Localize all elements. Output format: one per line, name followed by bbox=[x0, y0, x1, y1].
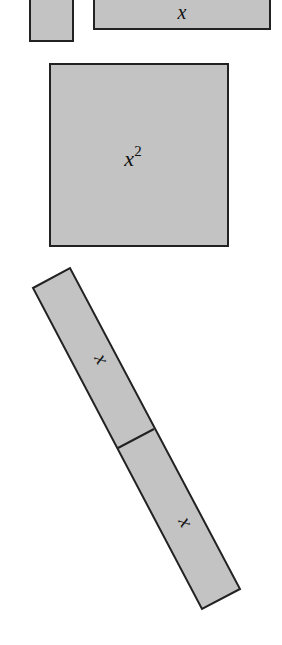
x-tile-top-label: x bbox=[177, 1, 187, 23]
x-squared-base: x bbox=[123, 146, 134, 171]
unit-tile bbox=[30, 0, 73, 41]
x-squared-tile: x2 bbox=[50, 64, 228, 246]
x-tile-top: x bbox=[94, 0, 270, 29]
rotated-x-tiles: x x bbox=[33, 268, 240, 609]
x-squared-exponent: 2 bbox=[134, 143, 142, 159]
algebra-tiles-diagram: x x2 x x bbox=[0, 0, 282, 645]
